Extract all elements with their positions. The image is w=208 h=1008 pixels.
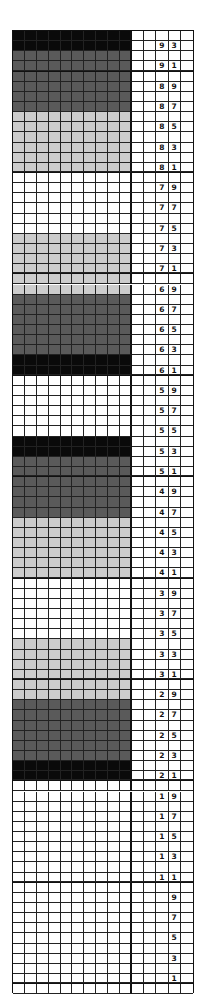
stitch-cell	[96, 416, 108, 426]
stitch-cell	[84, 315, 96, 325]
label-cell	[132, 325, 144, 335]
label-cell	[144, 285, 156, 295]
chart-row-7: 7	[13, 913, 193, 923]
stitch-cell	[61, 72, 73, 82]
label-cell	[181, 548, 193, 558]
stitch-cell	[120, 832, 132, 842]
label-cell	[181, 41, 193, 51]
stitch-cell	[13, 487, 25, 497]
label-cell	[181, 355, 193, 365]
stitch-cell	[120, 396, 132, 406]
label-cell	[181, 518, 193, 528]
stitch-cell	[84, 467, 96, 476]
label-cell	[132, 224, 144, 234]
stitch-cell	[13, 680, 25, 690]
chart-row-38	[13, 599, 193, 609]
stitch-cell	[61, 944, 73, 954]
label-cell	[156, 416, 168, 426]
label-cell	[181, 102, 193, 112]
chart-row-87: 87	[13, 102, 193, 112]
stitch-cell	[37, 619, 49, 629]
stitch-cell	[120, 497, 132, 507]
label-cell	[156, 822, 168, 832]
stitch-cell	[25, 467, 37, 476]
stitch-cell	[72, 214, 84, 224]
stitch-cell	[108, 173, 120, 183]
label-cell	[144, 741, 156, 751]
label-cell	[156, 315, 168, 325]
stitch-cell	[49, 903, 61, 913]
stitch-cell	[120, 639, 132, 649]
label-cell	[132, 761, 144, 771]
stitch-cell	[108, 670, 120, 679]
stitch-cell	[49, 477, 61, 487]
label-cell	[132, 913, 144, 923]
stitch-cell	[61, 406, 73, 416]
row-number-digit: 8	[156, 102, 167, 111]
stitch-cell	[120, 122, 132, 132]
stitch-cell	[13, 862, 25, 872]
label-cell	[169, 538, 181, 548]
stitch-cell	[49, 579, 61, 589]
stitch-cell	[84, 822, 96, 832]
stitch-cell	[72, 781, 84, 791]
row-number-digit: 1	[156, 832, 167, 841]
stitch-cell	[49, 325, 61, 335]
stitch-cell	[108, 933, 120, 943]
chart-row-86	[13, 112, 193, 122]
stitch-cell	[72, 234, 84, 244]
stitch-cell	[84, 406, 96, 416]
label-cell	[156, 153, 168, 163]
stitch-cell	[37, 416, 49, 426]
stitch-cell	[84, 761, 96, 771]
stitch-cell	[37, 214, 49, 224]
stitch-cell	[49, 203, 61, 213]
stitch-cell	[37, 660, 49, 670]
stitch-cell	[72, 477, 84, 487]
label-cell	[181, 386, 193, 396]
stitch-cell	[72, 771, 84, 780]
stitch-cell	[37, 274, 49, 284]
chart-row-79: 79	[13, 183, 193, 193]
label-cell	[156, 964, 168, 974]
label-cell	[181, 619, 193, 629]
chart-row-88	[13, 92, 193, 102]
stitch-cell	[120, 487, 132, 497]
label-cell	[144, 335, 156, 345]
stitch-cell	[37, 203, 49, 213]
stitch-cell	[13, 274, 25, 284]
label-cell	[169, 214, 181, 224]
label-cell	[144, 518, 156, 528]
stitch-cell	[108, 416, 120, 426]
label-cell	[156, 721, 168, 731]
label-cell	[132, 122, 144, 132]
stitch-cell	[13, 883, 25, 893]
stitch-cell	[108, 579, 120, 589]
label-cell	[181, 82, 193, 92]
row-number-digit: 3	[169, 244, 180, 253]
stitch-cell	[72, 61, 84, 70]
stitch-cell	[120, 660, 132, 670]
stitch-cell	[120, 426, 132, 436]
stitch-cell	[120, 568, 132, 577]
stitch-cell	[37, 72, 49, 82]
label-cell	[169, 274, 181, 284]
stitch-cell	[96, 153, 108, 163]
stitch-cell	[37, 102, 49, 112]
row-number-digit: 8	[156, 163, 167, 171]
label-cell: 9	[169, 82, 181, 92]
label-cell: 3	[169, 244, 181, 254]
row-number-digit: 6	[156, 345, 167, 354]
stitch-cell	[37, 467, 49, 476]
chart-row-34	[13, 639, 193, 649]
chart-row-91: 91	[13, 61, 193, 71]
stitch-cell	[96, 913, 108, 923]
stitch-cell	[84, 954, 96, 964]
label-cell	[181, 913, 193, 923]
stitch-cell	[84, 984, 96, 994]
stitch-cell	[72, 670, 84, 679]
row-number-digit: 3	[156, 629, 167, 638]
stitch-cell	[120, 305, 132, 315]
label-cell	[144, 437, 156, 447]
stitch-cell	[61, 173, 73, 183]
